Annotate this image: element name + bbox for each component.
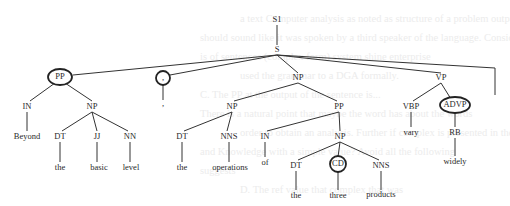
tree-edge — [298, 83, 337, 101]
tree-edge — [339, 112, 340, 131]
tree-edge — [340, 142, 379, 160]
node-vp: VP — [436, 72, 447, 82]
node-nns1: NNS — [220, 131, 237, 141]
tree-edge — [267, 112, 339, 131]
word-w_the2: the — [177, 162, 188, 172]
tree-edge — [62, 112, 92, 131]
tree-edge — [65, 83, 92, 101]
word-w_the3: the — [291, 190, 302, 200]
node-s1: S1 — [273, 14, 282, 24]
node-np2: NP — [87, 101, 98, 111]
tree-edge — [92, 112, 128, 131]
word-w_products: products — [366, 189, 395, 199]
node-jj: JJ — [94, 131, 101, 141]
node-cd: CD — [332, 158, 344, 168]
node-rb: RB — [449, 127, 461, 137]
tree-edge — [277, 55, 441, 73]
tree-edge — [170, 55, 277, 75]
node-in2: IN — [261, 131, 270, 141]
word-w_widely: widely — [443, 156, 467, 166]
tree-edge — [30, 83, 55, 101]
word-w_level: level — [123, 162, 140, 172]
node-nns2: NNS — [372, 160, 389, 170]
node-dt1: DT — [54, 131, 66, 141]
node-advp: ADVP — [443, 99, 466, 109]
word-w_of: of — [261, 157, 268, 167]
node-np3: NP — [227, 101, 238, 111]
word-w_three: three — [330, 190, 347, 200]
tree-labels: S1SPP,NPVPINNPBeyondDTJJNNthebasiclevel,… — [14, 14, 468, 200]
tree-edge — [441, 83, 451, 99]
node-in1: IN — [23, 101, 32, 111]
node-pp1: PP — [55, 71, 65, 81]
tree-edge — [338, 142, 340, 157]
tree-edge — [73, 55, 277, 75]
word-w_the1: the — [55, 162, 66, 172]
tree-edge — [92, 112, 97, 131]
tree-edge — [184, 112, 232, 131]
highlight-circles — [48, 69, 470, 172]
word-w_comma: , — [162, 98, 164, 108]
word-w_vary: vary — [403, 127, 419, 137]
tree-edge — [413, 83, 441, 101]
node-vbp: VBP — [403, 101, 420, 111]
node-nn: NN — [124, 131, 136, 141]
parse-tree: S1SPP,NPVPINNPBeyondDTJJNNthebasiclevel,… — [0, 0, 510, 206]
tree-edge — [277, 55, 298, 73]
node-comma: , — [162, 72, 164, 82]
node-np1: NP — [293, 72, 304, 82]
node-dt2: DT — [176, 131, 188, 141]
tree-edge — [227, 112, 232, 131]
word-w_operations: operations — [212, 162, 247, 172]
node-pp2: PP — [334, 101, 344, 111]
word-w_beyond: Beyond — [14, 131, 41, 141]
node-np4: NP — [335, 131, 346, 141]
tree-edge — [277, 55, 495, 68]
word-w_basic: basic — [90, 162, 108, 172]
tree-edge — [234, 83, 298, 101]
node-dt3: DT — [290, 160, 302, 170]
node-s: S — [275, 44, 280, 54]
